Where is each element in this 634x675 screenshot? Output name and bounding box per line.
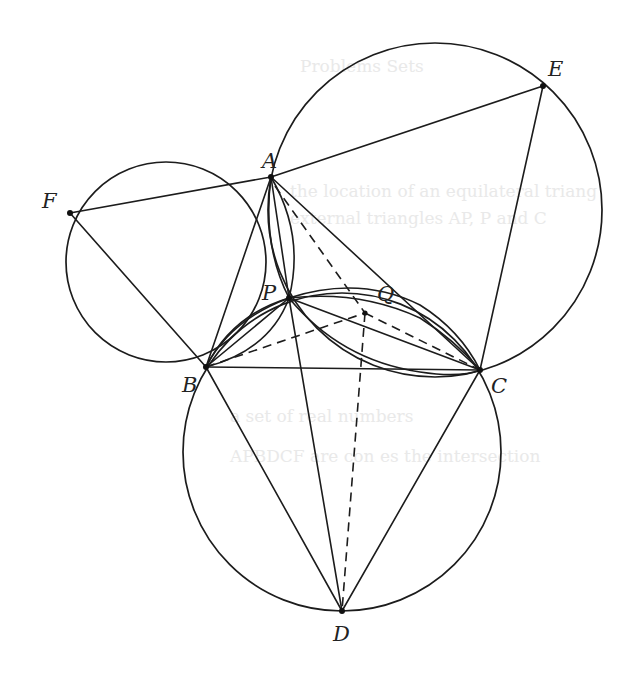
geometry-diagram: Problems Sets the location of an equilat…	[0, 0, 634, 675]
label-q: Q	[377, 282, 394, 306]
point-c	[477, 367, 483, 373]
circle-abf	[66, 162, 266, 362]
point-b	[203, 364, 209, 370]
segment-bf	[70, 213, 206, 367]
point-f	[67, 210, 73, 216]
label-c: C	[491, 374, 507, 398]
label-d: D	[332, 622, 350, 646]
point-x	[362, 310, 367, 315]
point-d	[339, 608, 345, 614]
segment-pc	[289, 298, 480, 370]
point-a	[268, 174, 274, 180]
ghost-line: external triangles AP, P and C	[290, 208, 547, 228]
label-b: B	[181, 373, 197, 397]
label-e: E	[547, 57, 563, 81]
arc-bpc-upper	[206, 288, 480, 370]
segment-ae	[271, 86, 543, 177]
ghost-line: the location of an equilateral triang	[290, 181, 597, 201]
ghost-line: APBDCF are con es the intersection	[229, 446, 541, 466]
ghost-line: a set of real numbers	[230, 406, 413, 426]
point-e	[540, 83, 546, 89]
label-p: P	[261, 281, 277, 305]
label-a: A	[260, 149, 277, 173]
dashed-x-c	[365, 313, 480, 370]
label-f: F	[41, 189, 58, 213]
segment-ce	[480, 86, 543, 370]
point-p	[286, 295, 292, 301]
segment-bc	[206, 367, 480, 370]
